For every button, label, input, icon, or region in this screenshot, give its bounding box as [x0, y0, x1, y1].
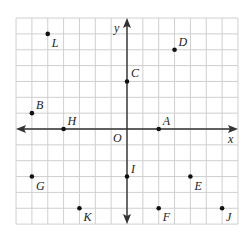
point-L: [45, 32, 50, 37]
point-label-D: D: [178, 35, 188, 49]
point-F: [156, 206, 161, 211]
point-label-B: B: [36, 98, 44, 112]
point-label-K: K: [82, 210, 92, 224]
point-H: [61, 127, 66, 132]
point-label-E: E: [193, 179, 202, 193]
coordinate-plane: LDCBHAGIEKFJ x y O: [0, 0, 249, 237]
points: LDCBHAGIEKFJ: [30, 32, 233, 225]
point-B: [30, 111, 35, 116]
point-G: [30, 174, 35, 179]
point-C: [125, 79, 130, 84]
point-D: [172, 47, 177, 52]
point-label-I: I: [130, 162, 136, 176]
point-A: [156, 127, 161, 132]
point-label-A: A: [162, 114, 171, 128]
x-axis-label: x: [227, 132, 234, 146]
point-I: [125, 174, 130, 179]
axes: [16, 18, 238, 224]
point-E: [188, 174, 193, 179]
point-label-C: C: [131, 66, 140, 80]
origin-label: O: [113, 131, 122, 145]
point-J: [220, 206, 225, 211]
point-label-F: F: [162, 210, 171, 224]
point-K: [77, 206, 82, 211]
point-label-J: J: [226, 210, 232, 224]
point-label-G: G: [36, 179, 45, 193]
y-axis-label: y: [113, 21, 120, 35]
point-label-H: H: [67, 114, 78, 128]
point-label-L: L: [51, 36, 59, 50]
